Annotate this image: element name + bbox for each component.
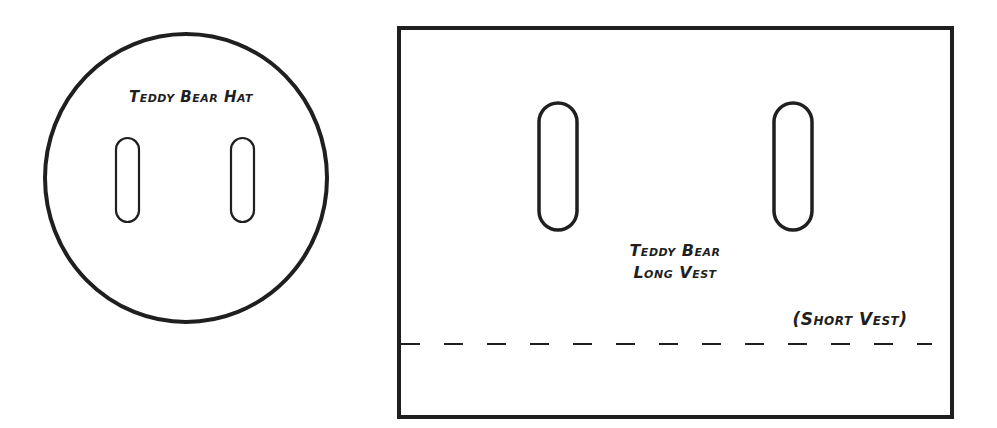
pattern-sheet: Teddy Bear Hat Teddy Bear Long Vest (Sho…: [0, 0, 997, 428]
vest-slot-right: [774, 103, 812, 230]
hat-title: Teddy Bear Hat: [126, 90, 256, 105]
vest-title: Teddy Bear Long Vest: [610, 240, 740, 284]
hat-outline-circle: [45, 34, 327, 322]
vest-title-line2: Long Vest: [610, 262, 740, 284]
pattern-drawing: [0, 0, 997, 428]
vest-outline-rectangle: [399, 28, 952, 417]
vest-slot-left: [539, 103, 577, 230]
hat-slot-left: [116, 138, 139, 222]
short-vest-label: (Short Vest): [788, 311, 912, 328]
hat-slot-right: [231, 138, 254, 222]
vest-title-line1: Teddy Bear: [610, 240, 740, 262]
